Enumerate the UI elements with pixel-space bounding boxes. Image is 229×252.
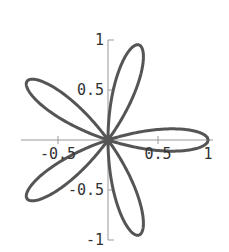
y-tick-label: 0.5 (77, 81, 104, 99)
y-tick-label: -1 (86, 231, 104, 249)
rose-curve-plot: -0.50.5110.5-0.5-1 (0, 0, 229, 252)
x-tick-label: 1 (203, 145, 212, 163)
y-tick-label: 1 (95, 31, 104, 49)
x-tick-label: 0.5 (144, 145, 171, 163)
axes (21, 40, 213, 240)
y-tick-label: -0.5 (68, 181, 104, 199)
x-tick-label: -0.5 (40, 145, 76, 163)
